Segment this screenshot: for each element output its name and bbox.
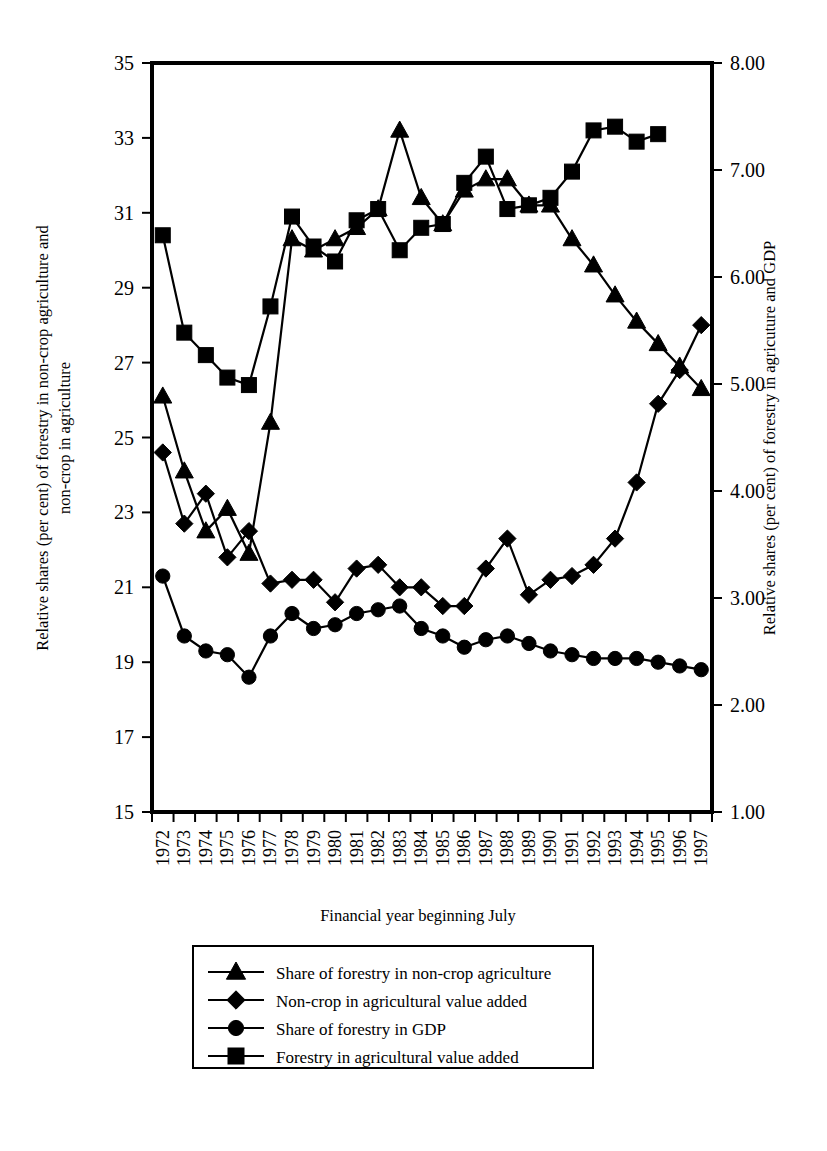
data-point-circle [349, 606, 363, 620]
data-point-circle [565, 648, 579, 662]
data-point-circle [694, 663, 708, 677]
x-axis-tick-label: 1985 [433, 830, 453, 866]
legend-label: Non-crop in agricultural value added [276, 992, 528, 1011]
x-axis-tick-label: 1978 [282, 830, 302, 866]
x-axis-tick-label: 1994 [627, 830, 647, 866]
data-point-square [608, 119, 623, 134]
data-point-circle [156, 569, 170, 583]
right-axis-tick-label: 2.00 [730, 694, 765, 716]
left-axis-tick-label: 23 [114, 501, 134, 523]
legend-label: Share of forestry in GDP [276, 1020, 446, 1039]
x-axis-tick-label: 1993 [605, 830, 625, 866]
x-axis-tick-label: 1989 [519, 830, 539, 866]
data-point-square [306, 239, 321, 254]
data-point-square [198, 348, 213, 363]
data-point-square [521, 198, 536, 213]
right-axis-tick-label: 1.00 [730, 801, 765, 823]
data-point-circle [522, 636, 536, 650]
data-point-circle [500, 629, 514, 643]
data-point-square [371, 202, 386, 217]
data-point-circle [285, 606, 299, 620]
x-axis-tick-label: 1979 [304, 830, 324, 866]
left-axis-tick-label: 17 [114, 726, 134, 748]
data-point-square [651, 127, 666, 142]
data-point-square [629, 134, 644, 149]
data-point-circle [177, 629, 191, 643]
chart-svg: 1517192123252729313335 1.002.003.004.005… [0, 0, 827, 1151]
x-axis-tick-label: 1987 [476, 830, 496, 866]
left-axis-tick-label: 25 [114, 427, 134, 449]
left-axis-tick-label: 29 [114, 277, 134, 299]
data-point-circle [436, 629, 450, 643]
data-point-square [565, 164, 580, 179]
x-axis-tick-label: 1990 [540, 830, 560, 866]
data-point-square [392, 243, 407, 258]
data-point-circle [414, 621, 428, 635]
data-point-circle [479, 633, 493, 647]
right-axis-tick-label: 8.00 [730, 52, 765, 74]
data-point-square [220, 370, 235, 385]
x-axis-tick-label: 1997 [691, 830, 711, 866]
data-point-circle [457, 640, 471, 654]
right-axis-tick-label: 7.00 [730, 159, 765, 181]
left-axis-tick-label: 35 [114, 52, 134, 74]
data-point-circle [220, 648, 234, 662]
data-point-square [263, 299, 278, 314]
data-point-square [457, 175, 472, 190]
left-axis-tick-label: 15 [114, 801, 134, 823]
data-point-circle [263, 629, 277, 643]
x-axis-title: Financial year beginning July [320, 906, 516, 925]
legend-label: Share of forestry in non-crop agricultur… [276, 964, 551, 983]
x-axis-tick-label: 1982 [368, 830, 388, 866]
x-axis-tick-label: 1986 [454, 830, 474, 866]
x-axis-tick-label: 1995 [648, 830, 668, 866]
x-axis-tick-label: 1984 [411, 830, 431, 866]
data-point-circle [673, 659, 687, 673]
left-axis-tick-label: 21 [114, 576, 134, 598]
x-axis-tick-label: 1974 [196, 830, 216, 866]
left-axis-tick-label: 19 [114, 651, 134, 673]
data-point-square [177, 325, 192, 340]
data-point-circle [608, 651, 622, 665]
data-point-square [500, 202, 515, 217]
x-axis-tick-label: 1973 [174, 830, 194, 866]
data-point-circle [393, 599, 407, 613]
x-axis-tick-label: 1983 [390, 830, 410, 866]
x-axis-tick-label: 1981 [347, 830, 367, 866]
chart-legend: Share of forestry in non-crop agricultur… [193, 946, 593, 1068]
data-point-square [435, 217, 450, 232]
data-point-square [414, 220, 429, 235]
data-point-circle [306, 621, 320, 635]
data-point-circle [199, 644, 213, 658]
x-axis-tick-label: 1977 [260, 830, 280, 866]
chart-figure: 1517192123252729313335 1.002.003.004.005… [0, 0, 827, 1151]
x-axis-tick-label: 1975 [217, 830, 237, 866]
data-point-square [349, 213, 364, 228]
x-axis-tick-label: 1976 [239, 830, 259, 866]
left-axis-tick-label: 27 [114, 352, 134, 374]
data-point-circle [328, 618, 342, 632]
data-point-square [285, 209, 300, 224]
left-axis-tick-label: 33 [114, 127, 134, 149]
left-axis-title-line2: non-crop in agriculture [55, 362, 74, 514]
legend-label: Forestry in agricultural value added [276, 1048, 519, 1067]
left-axis-title-line1: Relative shares (per cent) of forestry i… [33, 224, 52, 650]
data-point-square [478, 149, 493, 164]
x-axis-tick-label: 1980 [325, 830, 345, 866]
data-point-circle [629, 651, 643, 665]
x-axis-tick-label: 1991 [562, 830, 582, 866]
data-point-circle [543, 644, 557, 658]
x-axis-tick-labels: 1972197319741975197619771978197919801981… [153, 830, 711, 866]
right-axis-title: Relative shares (per cent) of forestry i… [760, 241, 779, 635]
data-point-square [543, 190, 558, 205]
x-axis-tick-label: 1988 [497, 830, 517, 866]
data-point-circle [651, 655, 665, 669]
data-point-circle [586, 651, 600, 665]
left-axis-tick-label: 31 [114, 202, 134, 224]
data-point-square [155, 228, 170, 243]
data-point-circle [242, 670, 256, 684]
x-axis-tick-label: 1996 [670, 830, 690, 866]
data-point-square [328, 254, 343, 269]
data-point-square [241, 378, 256, 393]
data-point-square [586, 123, 601, 138]
